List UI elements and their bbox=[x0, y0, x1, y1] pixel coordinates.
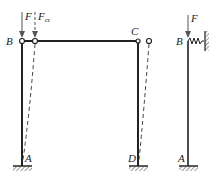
fixed-support-D bbox=[129, 167, 148, 171]
label-D: D bbox=[128, 153, 136, 164]
load-arrow-F bbox=[19, 31, 25, 38]
frame-diagram bbox=[0, 0, 221, 180]
label-F-right: F bbox=[191, 13, 198, 24]
wall bbox=[205, 31, 209, 51]
hinge-C-displaced bbox=[147, 39, 152, 44]
load-arrow-Fcr bbox=[32, 31, 38, 38]
deformed-right-column bbox=[139, 44, 149, 160]
hinge-C bbox=[136, 39, 140, 43]
right-model bbox=[179, 15, 209, 171]
fixed-support-A-right bbox=[179, 167, 198, 171]
hinge-B-displaced bbox=[33, 39, 38, 44]
label-Fcr: Fcr bbox=[38, 11, 50, 24]
spring bbox=[188, 38, 204, 44]
label-B: B bbox=[6, 36, 13, 47]
label-F: F bbox=[25, 11, 32, 22]
fixed-support-A bbox=[13, 167, 32, 171]
deformed-left-column bbox=[23, 44, 35, 160]
label-C: C bbox=[131, 26, 138, 37]
label-A: A bbox=[25, 153, 32, 164]
label-B-right: B bbox=[176, 36, 183, 47]
label-A-right: A bbox=[178, 153, 185, 164]
hinge-B bbox=[20, 39, 25, 44]
